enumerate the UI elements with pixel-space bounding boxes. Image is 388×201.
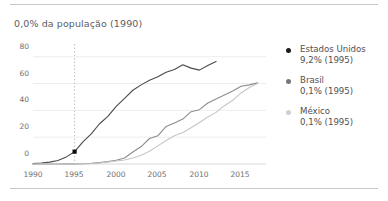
series-line bbox=[33, 83, 258, 164]
legend-item-estados-unidos[interactable]: Estados Unidos 9,2% (1995) bbox=[286, 44, 386, 66]
y-tick-80: 80 bbox=[5, 42, 29, 51]
legend-label: Brasil bbox=[300, 75, 386, 86]
y-tick-60: 60 bbox=[5, 69, 29, 78]
legend-value: 9,2% (1995) bbox=[300, 55, 386, 66]
y-tick-40: 40 bbox=[5, 95, 29, 104]
chart-title: 0,0% da população (1990) bbox=[14, 18, 142, 29]
x-tick-2000: 2000 bbox=[99, 170, 133, 179]
legend-item-brasil[interactable]: Brasil 0,1% (1995) bbox=[286, 75, 386, 97]
x-tick-2005: 2005 bbox=[140, 170, 174, 179]
legend-dot-icon bbox=[286, 110, 291, 115]
legend-value: 0,1% (1995) bbox=[300, 86, 386, 97]
x-tick-2015: 2015 bbox=[223, 170, 257, 179]
x-tick-1995: 1995 bbox=[57, 170, 91, 179]
gridlines bbox=[33, 57, 266, 164]
bottom-divider bbox=[10, 188, 378, 189]
data-point-marker bbox=[73, 150, 77, 154]
y-tick-20: 20 bbox=[5, 122, 29, 131]
legend-dot-icon bbox=[286, 48, 291, 53]
legend-label: Estados Unidos bbox=[300, 44, 386, 55]
legend-item-mexico[interactable]: México 0,1% (1995) bbox=[286, 106, 386, 128]
legend-value: 0,1% (1995) bbox=[300, 117, 386, 128]
legend-dot-icon bbox=[286, 79, 291, 84]
x-tick-2010: 2010 bbox=[182, 170, 216, 179]
chart-plot bbox=[33, 46, 266, 164]
chart-legend: Estados Unidos 9,2% (1995) Brasil 0,1% (… bbox=[286, 44, 386, 137]
y-tick-0: 0 bbox=[5, 149, 29, 158]
x-tick-1990: 1990 bbox=[16, 170, 50, 179]
series-line bbox=[33, 61, 216, 163]
plot-area bbox=[33, 46, 266, 164]
legend-label: México bbox=[300, 106, 386, 117]
highlight-marker bbox=[73, 150, 77, 154]
chart-card: 0,0% da população (1990) 80 60 40 20 0 1… bbox=[0, 0, 388, 201]
series-lines bbox=[33, 61, 258, 164]
top-divider bbox=[10, 4, 378, 5]
